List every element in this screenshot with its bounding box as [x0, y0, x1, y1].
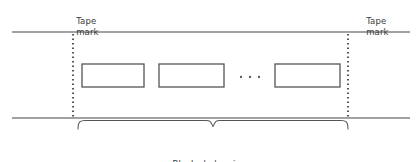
tape-mark-right-line-1: Tape: [366, 16, 386, 26]
tape-mark-left-line-1: Tape: [76, 16, 96, 26]
brace-caption: Blocks belonging to the same file: [0, 134, 419, 162]
brace-caption-line-1: Blocks belonging: [0, 158, 419, 162]
tape-mark-right-line-2: mark: [366, 27, 388, 37]
blocks-ellipsis-icon: [240, 76, 260, 78]
tape-block-diagram: Tape mark Tape mark Blocks belonging to …: [0, 0, 419, 162]
tape-mark-label-left: Tape mark: [65, 5, 99, 49]
blocks-grouping-brace: [78, 121, 348, 130]
tape-block-1: [82, 64, 144, 87]
tape-mark-label-right: Tape mark: [355, 5, 389, 49]
tape-block-2: [159, 64, 224, 87]
tape-mark-left-line-2: mark: [76, 27, 98, 37]
tape-block-3: [275, 64, 340, 87]
